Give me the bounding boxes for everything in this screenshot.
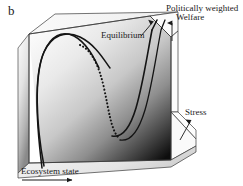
figure-panel: b Politically weighted Welfare Equilibri… — [0, 0, 243, 186]
right-side-wall — [171, 31, 196, 160]
welfare-axis-label: Welfare — [176, 13, 204, 22]
stress-axis-label: Stress — [185, 108, 207, 117]
equilibrium-label: Equilibrium — [101, 31, 145, 40]
left-side-wall — [18, 34, 29, 173]
panel-letter: b — [8, 4, 15, 18]
ecosystem-state-axis-label: Ecosystem state — [21, 167, 79, 176]
diagram-canvas — [0, 0, 243, 186]
